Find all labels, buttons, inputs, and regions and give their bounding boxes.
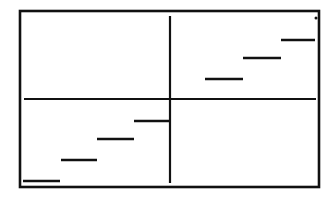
isolated-points xyxy=(315,17,318,20)
step-function-chart xyxy=(0,0,335,202)
corner-dot xyxy=(315,17,318,20)
